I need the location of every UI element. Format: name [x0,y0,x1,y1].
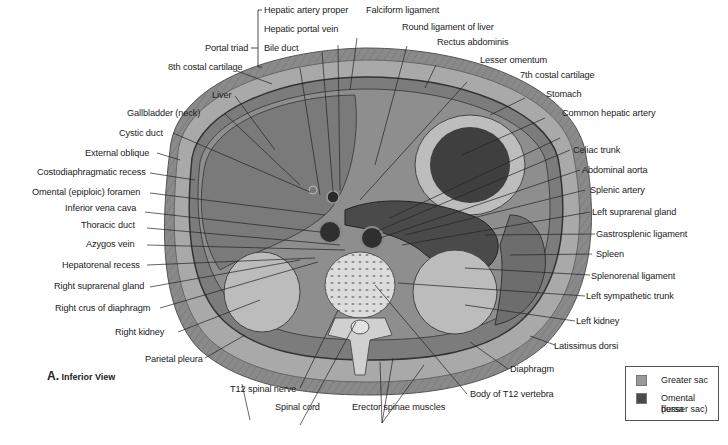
label-t12-spinal-nerve: T12 spinal nerve [230,384,296,395]
label-gastrosplenic-ligament: Gastrosplenic ligament [596,229,687,240]
label-inferior-vena-cava: Inferior vena cava [65,203,136,214]
label-splenorenal-ligament: Splenorenal ligament [591,271,675,282]
label-external-oblique: External oblique [85,148,149,159]
right-kidney-region [224,252,300,332]
label-common-hepatic-artery: Common hepatic artery [562,108,655,119]
label-hepatorenal-recess: Hepatorenal recess [62,260,140,271]
label-right-kidney: Right kidney [115,327,164,338]
left-kidney-region [413,250,497,334]
portal-triad-bracket [251,10,262,67]
label-8th-costal-cartilage: 8th costal cartilage [168,62,243,73]
caption-text: Inferior View [62,372,116,382]
label-hepatic-artery-proper: Hepatic artery proper [264,5,348,16]
label-body-of-t12: Body of T12 vertebra [470,389,554,400]
label-gallbladder-neck: Gallbladder (neck) [127,108,200,119]
label-costodiaphragmatic-recess: Costodiaphragmatic recess [37,167,146,178]
label-hepatic-portal-vein: Hepatic portal vein [264,24,338,35]
legend-box: Greater sac Omental bursa (lesser sac) [625,366,719,421]
caption-letter: A. [47,369,59,383]
label-omental-foramen: Omental (epiploic) foramen [32,187,140,198]
label-erector-spinae: Erector spinae muscles [352,402,445,413]
label-right-suprarenal-gland: Right suprarenal gland [54,281,144,292]
label-spleen: Spleen [596,249,624,260]
anatomy-figure: Portal triad Hepatic artery proper Hepat… [0,0,728,445]
label-abdominal-aorta: Abdominal aorta [582,165,647,176]
legend-label-greater-sac: Greater sac [661,375,708,386]
label-right-crus-of-diaphragm: Right crus of diaphragm [55,303,150,314]
label-cystic-duct: Cystic duct [119,128,163,139]
label-latissimus-dorsi: Latissimus dorsi [554,341,618,352]
figure-caption: A. Inferior View [47,369,115,383]
legend-label-omental-bursa-line2: (lesser sac) [661,404,708,415]
label-diaphragm: Diaphragm [510,364,554,375]
label-falciform-ligament: Falciform ligament [366,5,439,16]
label-left-kidney: Left kidney [576,316,619,327]
legend-swatch-greater-sac [636,375,647,386]
label-thoracic-duct: Thoracic duct [81,220,135,231]
spinal-cord-region [351,320,369,334]
label-portal-triad: Portal triad [205,43,248,54]
ivc-region [319,221,341,243]
label-celiac-trunk: Celiac trunk [573,145,620,156]
label-bile-duct: Bile duct [264,43,298,54]
label-rectus-abdominis: Rectus abdominis [437,37,508,48]
label-stomach: Stomach [546,89,582,100]
legend-swatch-omental-bursa [636,393,647,404]
label-left-sympathetic-trunk: Left sympathetic trunk [586,291,674,302]
vertebral-body [325,252,395,318]
label-azygos-vein: Azygos vein [86,239,134,250]
label-lesser-omentum: Lesser omentum [480,55,547,66]
label-spinal-cord: Spinal cord [275,402,320,413]
label-7th-costal-cartilage: 7th costal cartilage [520,70,595,81]
label-splenic-artery: Splenic artery [590,185,645,196]
label-parietal-pleura: Parietal pleura [145,354,203,365]
label-left-suprarenal-gland: Left suprarenal gland [592,207,676,218]
label-round-ligament: Round ligament of liver [402,22,494,33]
label-liver: Liver [212,90,231,101]
